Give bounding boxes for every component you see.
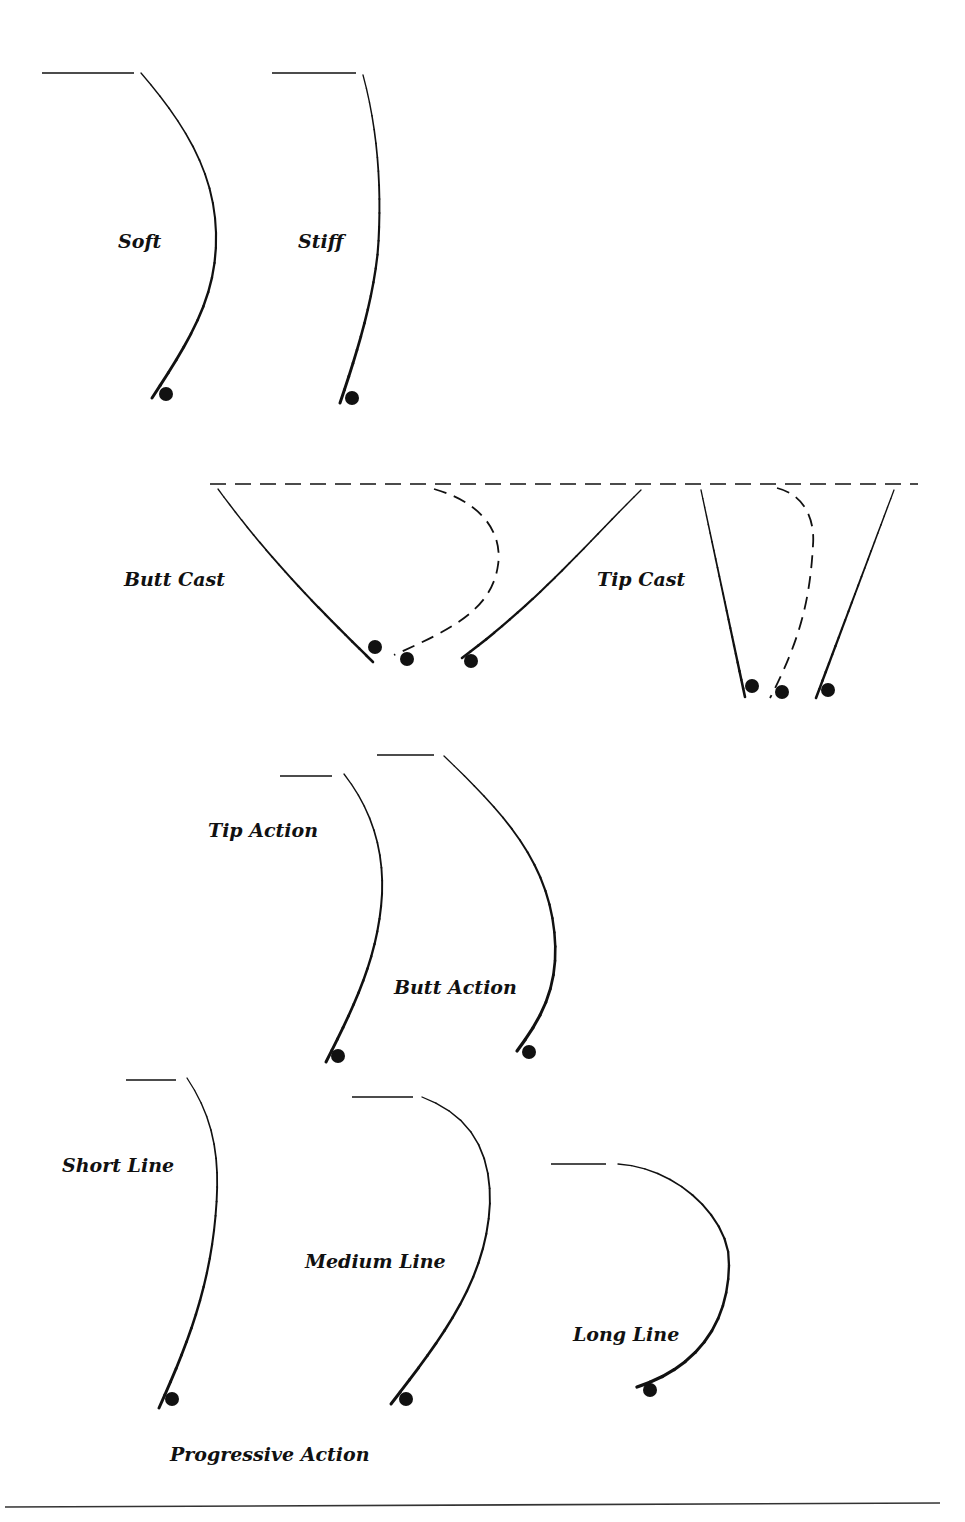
medium-line-rod	[484, 1159, 488, 1174]
soft-rod	[213, 203, 215, 218]
short-line-rod	[191, 1314, 195, 1328]
tip_cast-rod-back	[732, 637, 734, 646]
tip-action-rod	[375, 931, 378, 944]
stiff-rod	[376, 143, 377, 157]
butt_cast-rod-forward	[598, 526, 605, 533]
long-line-rod	[718, 1306, 723, 1319]
butt_cast-rod-back	[305, 593, 312, 600]
tip-action-rod-reel-icon	[331, 1049, 345, 1063]
soft-rod	[151, 85, 160, 97]
long-line-rod	[728, 1252, 729, 1266]
butt_cast-rod-forward	[494, 626, 502, 633]
stiff-rod	[378, 241, 379, 255]
butt-action-rod	[553, 961, 555, 975]
butt-action-rod	[534, 865, 540, 878]
tip_cast-rod-forward	[875, 533, 878, 542]
butt_cast-reel-icon-2	[464, 654, 478, 668]
medium-line-rod	[436, 1331, 444, 1344]
tip_cast-rod-forward	[884, 507, 887, 516]
butt-action-rod	[525, 1028, 533, 1040]
tip-action-rod	[344, 774, 352, 784]
long-line-rod	[725, 1239, 729, 1252]
long-line-rod	[711, 1215, 718, 1226]
butt_cast-reel-icon-0	[368, 640, 382, 654]
tip_cast-rod-back	[738, 663, 740, 672]
tip_cast-rod-forward	[842, 620, 845, 629]
label-stiff: Stiff	[298, 232, 343, 251]
stiff-rod-reel-icon	[345, 391, 359, 405]
label-soft: Soft	[118, 232, 161, 251]
butt_cast-rod-back	[359, 648, 366, 655]
butt_cast-rod-forward	[584, 541, 591, 548]
tip-action-rod	[364, 806, 369, 818]
butt_cast-rod-forward	[478, 639, 486, 645]
tip_cast-rod-back	[743, 688, 745, 697]
butt-action-rod	[554, 932, 555, 946]
soft-rod	[215, 248, 216, 263]
soft-rod	[160, 96, 169, 108]
butt_cast-rod-back	[218, 489, 224, 497]
butt_cast-rod-forward	[577, 549, 584, 556]
tip_cast-rod-back	[718, 568, 720, 577]
tip-action-rod	[379, 906, 381, 919]
short-line-rod	[176, 1355, 181, 1368]
butt-action-rod	[512, 829, 520, 841]
butt_cast-rod-back	[235, 512, 241, 520]
tip_cast-reel-icon-1	[775, 685, 789, 699]
tip-action-rod	[381, 868, 382, 881]
stiff-rod	[364, 310, 367, 324]
butt_cast-rod-back	[285, 572, 292, 579]
tip-action-rod	[354, 993, 359, 1005]
short-line-rod	[171, 1368, 177, 1381]
soft-rod	[152, 385, 160, 398]
tip-action-rod	[381, 893, 382, 906]
tip_cast-reel-icon-0	[745, 679, 759, 693]
butt_cast-rod-forward	[510, 613, 518, 620]
short-line-rod	[214, 1216, 215, 1230]
butt_cast-rod-forward	[634, 490, 641, 497]
rod-drawings	[0, 0, 965, 1522]
soft-rod	[215, 218, 216, 233]
soft-rod	[184, 334, 191, 347]
butt_cast-rod-back	[325, 614, 332, 621]
stiff-rod	[369, 102, 372, 116]
tip-action-rod	[337, 1028, 343, 1040]
butt_cast-rod-forward	[627, 497, 634, 504]
long-line-rod-reel-icon	[643, 1383, 657, 1397]
butt-action-rod	[533, 1015, 540, 1027]
short-line-rod	[201, 1103, 206, 1116]
tip_cast-rod-back	[703, 499, 705, 508]
butt-action-rod	[545, 891, 549, 905]
long-line-rod	[692, 1195, 702, 1204]
tip_cast-rod-back	[710, 533, 712, 542]
medium-line-rod	[436, 1103, 449, 1111]
stiff-rod	[344, 377, 348, 390]
butt-action-rod	[550, 975, 553, 989]
butt_cast-rod-forward	[540, 585, 547, 592]
label-butt-cast: Butt Cast	[124, 570, 225, 589]
long-line-rod	[645, 1169, 658, 1174]
butt_cast-rod-back	[352, 642, 359, 649]
short-line-rod	[216, 1158, 217, 1172]
label-short-line: Short Line	[62, 1156, 174, 1175]
tip_cast-reel-icon-2	[821, 683, 835, 697]
butt_cast-rod-back	[345, 635, 352, 642]
soft-rod	[212, 263, 215, 278]
stiff-rod	[366, 89, 369, 103]
tip_cast-rod-forward	[871, 542, 874, 551]
tip-action-rod	[374, 830, 377, 842]
butt_cast-rod-forward	[562, 563, 569, 570]
tip_cast-rod-forward	[881, 516, 884, 525]
tip_cast-rod-back	[723, 594, 725, 603]
soft-rod	[168, 360, 176, 373]
tip-action-rod	[377, 919, 379, 932]
long-line-rod	[674, 1362, 685, 1370]
soft-rod	[193, 146, 200, 160]
soft-rod	[178, 121, 186, 134]
butt-action-rod	[494, 807, 503, 818]
long-line-rod	[726, 1279, 728, 1293]
butt_cast-rod-forward	[470, 646, 478, 652]
butt-action-rod-reel-icon	[522, 1045, 536, 1059]
long-line-rod	[695, 1342, 704, 1352]
long-line-rod	[704, 1331, 712, 1342]
